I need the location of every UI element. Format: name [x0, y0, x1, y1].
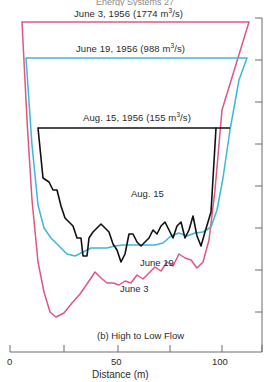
june3-stage-label-suffix: /s)	[172, 8, 183, 19]
x-tick-label-0: 0	[7, 356, 12, 367]
river-cross-section-figure: Energy Systems 27 June 3	[0, 0, 274, 382]
june3-bed-profile	[22, 22, 249, 317]
x-tick-label-50: 50	[111, 356, 122, 367]
june19-stage-label-text: June 19, 1956 (988 m	[76, 43, 170, 54]
june3-bed-tag: June 3	[120, 283, 149, 294]
aug15-stage-label-suffix: /s)	[180, 112, 191, 123]
aug15-stage-label-text: Aug. 15, 1956 (155 m	[83, 112, 176, 123]
june19-stage-label-suffix: /s)	[174, 43, 185, 54]
june19-stage-label: June 19, 1956 (988 m3/s)	[76, 43, 185, 54]
x-axis-title: Distance (m)	[92, 369, 149, 380]
x-tick-label-100: 100	[212, 356, 228, 367]
june3-stage-label-text: June 3, 1956 (1774 m	[74, 8, 168, 19]
june3-stage-label: June 3, 1956 (1774 m3/s)	[74, 8, 183, 19]
panel-caption: (b) High to Low Flow	[97, 330, 184, 341]
june19-bed-tag: June 19	[140, 257, 174, 268]
aug15-bed-profile	[38, 128, 216, 262]
aug15-stage-label: Aug. 15, 1956 (155 m3/s)	[83, 112, 191, 123]
aug15-bed-tag: Aug. 15	[131, 188, 164, 199]
